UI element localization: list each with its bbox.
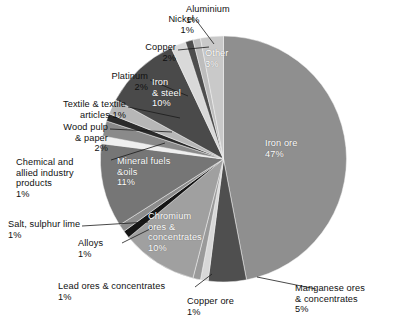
label-copper: Copper 2% (112, 42, 176, 63)
label-platinum: Platinum 2% (86, 71, 148, 92)
label-textile: Textile & textile articles 1% (36, 99, 126, 120)
label-alloys: Alloys 1% (78, 238, 134, 259)
label-copper-ore: Copper ore 1% (187, 296, 257, 317)
label-nickel: Nickel 1% (128, 14, 194, 35)
label-iron-ore: Iron ore 47% (265, 138, 323, 159)
label-iron-steel: Iron & steel 10% (152, 77, 200, 109)
label-manganese: Manganese ores & concentrates 5% (295, 283, 399, 315)
label-chromium: Chromium ores & concentrates 10% (148, 211, 228, 253)
label-wood-pulp: Wood pulp & paper 2% (36, 122, 108, 154)
label-other: Other 3% (205, 48, 249, 69)
label-mineral-fuels: Mineral fuels &oils 11% (117, 156, 193, 188)
label-chemical: Chemical and allied industry products 1% (16, 157, 114, 199)
label-salt: Salt, sulphur lime 1% (8, 219, 106, 240)
pie-chart: Aluminium 1% Nickel 1% Copper 2% Platinu… (0, 0, 402, 326)
